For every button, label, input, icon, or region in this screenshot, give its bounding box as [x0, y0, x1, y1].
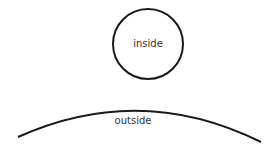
diagram-canvas: inside outside	[0, 0, 270, 149]
outside-label: outside	[115, 115, 152, 126]
inside-label: inside	[133, 38, 163, 49]
